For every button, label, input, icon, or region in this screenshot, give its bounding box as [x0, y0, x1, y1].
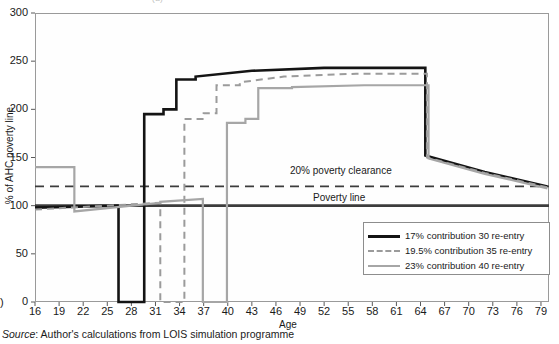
x-tick-label: 61: [385, 305, 407, 317]
legend-label-2: 23% contribution 40 re-entry: [405, 260, 524, 271]
source-note: Source: Author's calculations from LOIS …: [2, 328, 294, 340]
x-tick-label: 49: [289, 305, 311, 317]
x-tick-label: 64: [410, 305, 432, 317]
x-tick-label: 46: [265, 305, 287, 317]
x-tick-label: 67: [434, 305, 456, 317]
legend-label-0: 17% contribution 30 re-entry: [405, 230, 524, 241]
figure-container: (a) ) 050100150200250300 161922252831343…: [0, 0, 559, 344]
x-tick-label: 25: [96, 305, 118, 317]
x-tick-label: 55: [337, 305, 359, 317]
legend-swatch-solid-grey-icon: [368, 260, 400, 271]
x-tick-label: 28: [120, 305, 142, 317]
legend-swatch-dashed-grey-icon: [368, 245, 400, 256]
x-tick-label: 73: [482, 305, 504, 317]
x-tick-label: 40: [217, 305, 239, 317]
x-tick-label: 79: [530, 305, 552, 317]
x-tick-label: 58: [361, 305, 383, 317]
legend-item-1: 19.5% contribution 35 re-entry: [368, 243, 549, 258]
legend-item-2: 23% contribution 40 re-entry: [368, 258, 549, 273]
reference-lines: [35, 186, 549, 205]
x-tick-label: 16: [24, 305, 46, 317]
annotation-poverty-clearance: 20% poverty clearance: [290, 165, 392, 176]
legend-item-0: 17% contribution 30 re-entry: [368, 228, 549, 243]
y-tick-label: 300: [2, 6, 28, 18]
legend-swatch-solid-black-icon: [368, 230, 400, 241]
x-tick-label: 70: [458, 305, 480, 317]
x-tick-label: 31: [144, 305, 166, 317]
chart-legend: 17% contribution 30 re-entry 19.5% contr…: [363, 222, 550, 275]
x-tick-label: 43: [241, 305, 263, 317]
x-tick-label: 22: [72, 305, 94, 317]
y-axis-title: % of AHC poverty line: [4, 91, 15, 221]
source-label: Source: [2, 328, 35, 340]
chart-canvas: [0, 0, 559, 344]
x-tick-label: 34: [169, 305, 191, 317]
x-tick-label: 19: [48, 305, 70, 317]
y-tick-label: 250: [2, 54, 28, 66]
source-body: : Author's calculations from LOIS simula…: [35, 328, 294, 340]
x-tick-label: 76: [506, 305, 528, 317]
annotation-poverty-line: Poverty line: [313, 192, 365, 203]
y-tick-label: 50: [2, 247, 28, 259]
x-tick-label: 37: [193, 305, 215, 317]
legend-label-1: 19.5% contribution 35 re-entry: [405, 245, 532, 256]
x-tick-label: 52: [313, 305, 335, 317]
